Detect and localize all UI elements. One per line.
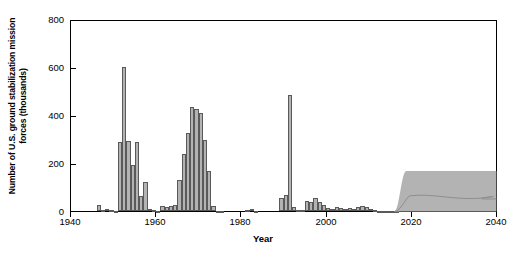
x-tick-label-1940: 1940 [40,216,100,227]
x-axis-title: Year [0,233,526,244]
y-tick-label-600: 600 [30,62,64,73]
projection-band-layer [71,21,497,212]
y-tick-label-400: 400 [30,110,64,121]
y-tick-label-200: 200 [30,158,64,169]
projection-band-area [394,171,496,212]
x-tick-label-2040: 2040 [466,216,526,227]
x-tick-label-1980: 1980 [210,216,270,227]
chart-figure: Number of U.S. ground stabilization miss… [0,0,526,255]
x-tick-label-1960: 1960 [125,216,185,227]
y-tick-label-800: 800 [30,14,64,25]
plot-area [70,20,497,212]
x-tick-label-2000: 2000 [296,216,356,227]
x-tick-label-2020: 2020 [381,216,441,227]
